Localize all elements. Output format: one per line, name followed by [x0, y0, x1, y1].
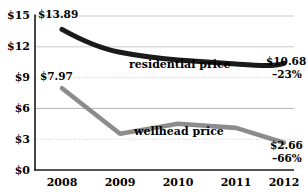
y-tick-label-9: $9 — [0, 72, 30, 83]
x-tick-label-2009: 2009 — [97, 177, 143, 188]
residential-start-value-label: $13.89 — [38, 9, 78, 20]
x-tick-label-2012: 2012 — [261, 177, 307, 188]
x-tick-label-2010: 2010 — [155, 177, 201, 188]
chart-plot-svg — [0, 0, 308, 196]
wellhead-change-label: –66% — [272, 153, 302, 164]
y-tick-label-0: $0 — [0, 165, 30, 176]
y-tick-label-6: $6 — [0, 103, 30, 114]
x-tick-label-2008: 2008 — [39, 177, 85, 188]
series-label-residential-price: residential price — [129, 59, 231, 70]
residential-end-value-label: $10.68 — [266, 56, 306, 67]
x-tick-label-2011: 2011 — [213, 177, 259, 188]
wellhead-end-value-label: $2.66 — [270, 140, 303, 151]
residential-change-label: –23% — [272, 69, 302, 80]
price-trend-line-chart: $15 $12 $9 $6 $3 $0 2008 2009 2010 2011 … — [0, 0, 308, 196]
series-label-wellhead-price: wellhead price — [134, 126, 224, 137]
y-tick-label-3: $3 — [0, 134, 30, 145]
y-tick-label-15: $15 — [0, 10, 30, 21]
y-tick-label-12: $12 — [0, 41, 30, 52]
wellhead-start-value-label: $7.97 — [40, 71, 73, 82]
